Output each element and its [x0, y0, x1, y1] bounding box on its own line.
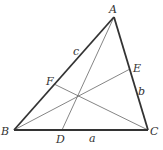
- side-label-b: b: [138, 85, 145, 98]
- point-label-D: D: [55, 133, 65, 146]
- triangle-diagram: A B C D E F a b c: [0, 0, 163, 150]
- side-label-a: a: [89, 132, 96, 145]
- vertex-label-B: B: [0, 125, 9, 138]
- cevian-CF: [54, 84, 148, 130]
- cevian-BE: [14, 69, 130, 130]
- vertex-label-A: A: [108, 3, 117, 16]
- side-c-AB: [14, 17, 114, 130]
- point-label-F: F: [45, 75, 54, 88]
- side-label-c: c: [73, 45, 79, 58]
- cevian-AD: [62, 17, 114, 130]
- side-b-AC: [114, 17, 148, 130]
- point-label-E: E: [132, 62, 141, 75]
- vertex-label-C: C: [150, 125, 159, 138]
